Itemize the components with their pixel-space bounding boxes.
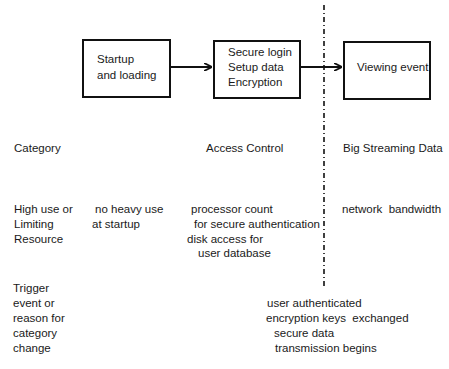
box-startup-line2: and loading [97, 68, 156, 83]
resource-label-line2: Limiting [14, 217, 54, 232]
resource-access-line2: for secure authentication [194, 217, 320, 232]
box-viewing-line1: Viewing event [357, 60, 428, 75]
box-login-line1: Secure login [228, 45, 292, 60]
category-label: Category [14, 141, 61, 156]
box-viewing-event: Viewing event [343, 41, 431, 100]
resource-access-line3: disk access for [187, 232, 263, 247]
box-startup: Startup and loading [82, 39, 171, 98]
resource-label-line3: Resource [14, 232, 63, 247]
trigger-event-line1: user authenticated [267, 296, 362, 311]
category-access-control: Access Control [206, 141, 283, 156]
trigger-label-line1: Trigger [13, 281, 49, 296]
resource-label-line1: High use or [14, 202, 73, 217]
resource-startup-line1: no heavy use [95, 202, 163, 217]
trigger-event-line2: encryption keys exchanged [266, 311, 409, 326]
trigger-label-line5: change [13, 341, 51, 356]
trigger-event-line3: secure data [274, 326, 334, 341]
trigger-label-line2: event or [13, 296, 55, 311]
resource-access-line1: processor count [191, 202, 273, 217]
trigger-event-line4: transmission begins [275, 341, 377, 356]
resource-startup-line2: at startup [92, 217, 140, 232]
category-big-streaming: Big Streaming Data [343, 141, 443, 156]
box-startup-line1: Startup [97, 52, 134, 67]
trigger-label-line3: reason for [13, 311, 65, 326]
resource-streaming-line1: network bandwidth [342, 202, 441, 217]
box-secure-login: Secure login Setup data Encryption [213, 40, 301, 99]
trigger-label-line4: category [13, 326, 57, 341]
box-login-line2: Setup data [228, 60, 284, 75]
resource-access-line4: user database [198, 246, 271, 261]
box-login-line3: Encryption [228, 75, 282, 90]
